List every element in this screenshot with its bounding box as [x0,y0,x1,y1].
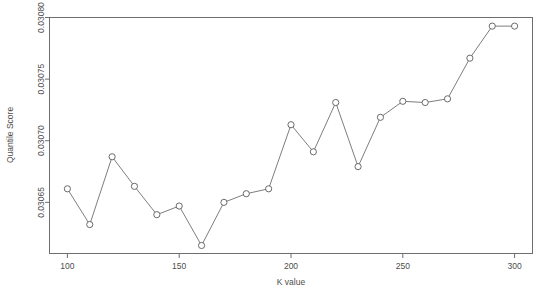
data-point [87,221,93,227]
data-point [422,99,428,105]
x-axis-tick-label: 100 [60,261,74,271]
data-point [489,23,495,29]
quantile-score-line-chart: 0.030650.030700.030750.03080 10015020025… [0,0,546,293]
y-axis-tick-label: 0.03065 [36,187,46,218]
data-point [310,149,316,155]
data-point [512,23,518,29]
data-point [243,191,249,197]
x-axis-tick-label: 300 [508,261,522,271]
data-point [288,122,294,128]
y-axis-tick-label: 0.03075 [36,63,46,94]
y-axis-title: Quantile Score [5,107,15,163]
x-axis-tick-label: 150 [172,261,186,271]
data-point [176,203,182,209]
data-point [377,114,383,120]
data-point [333,99,339,105]
chart-container: 0.030650.030700.030750.03080 10015020025… [0,0,546,293]
data-point [221,199,227,205]
x-axis-tick-label: 250 [396,261,410,271]
data-point [266,186,272,192]
chart-background [0,0,546,293]
data-point [154,212,160,218]
data-point [109,154,115,160]
y-axis-tick-label: 0.03080 [36,2,46,33]
x-axis-tick-label: 200 [284,261,298,271]
data-point [198,242,204,248]
y-axis-tick-label: 0.03070 [36,125,46,156]
data-point [444,96,450,102]
x-axis-title: K value [277,277,306,287]
data-point [355,164,361,170]
data-point [131,183,137,189]
data-point [400,98,406,104]
data-point [467,55,473,61]
data-point [64,186,70,192]
